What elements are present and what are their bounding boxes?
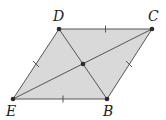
label-b: B bbox=[102, 103, 113, 119]
point-c bbox=[150, 27, 155, 32]
point-center bbox=[81, 62, 86, 67]
point-e bbox=[11, 97, 16, 102]
point-b bbox=[105, 97, 110, 102]
point-d bbox=[57, 27, 62, 32]
label-e: E bbox=[5, 103, 16, 119]
label-c: C bbox=[148, 8, 159, 24]
rhombus-diagram: D C B E bbox=[0, 0, 166, 120]
label-d: D bbox=[52, 8, 64, 24]
